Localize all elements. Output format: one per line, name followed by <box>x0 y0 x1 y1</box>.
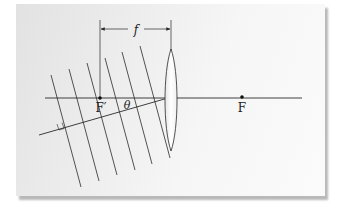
back-focus-point <box>240 95 244 99</box>
lens-diagram: f F′ F θ <box>0 0 345 203</box>
front-focus-point <box>98 96 102 100</box>
convex-lens <box>165 49 177 151</box>
wavefront-line <box>87 63 117 175</box>
wavefront-lines <box>51 46 170 187</box>
focal-length-label: f <box>133 23 141 37</box>
wavefront-line <box>51 75 81 187</box>
back-focus-label: F <box>238 101 246 115</box>
front-focus-label: F′ <box>95 101 106 115</box>
angle-theta-label: θ <box>124 99 131 112</box>
wavefront-line <box>105 58 135 170</box>
